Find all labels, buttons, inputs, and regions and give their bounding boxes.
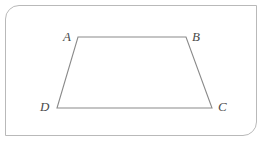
vertex-label-d: D [40, 100, 49, 113]
trapezoid-outline [57, 37, 212, 108]
vertex-label-a: A [63, 30, 71, 43]
diagram-page: A B C D [0, 0, 264, 142]
vertex-label-b: B [192, 30, 200, 43]
vertex-label-c: C [218, 100, 227, 113]
trapezoid-figure [0, 0, 264, 142]
